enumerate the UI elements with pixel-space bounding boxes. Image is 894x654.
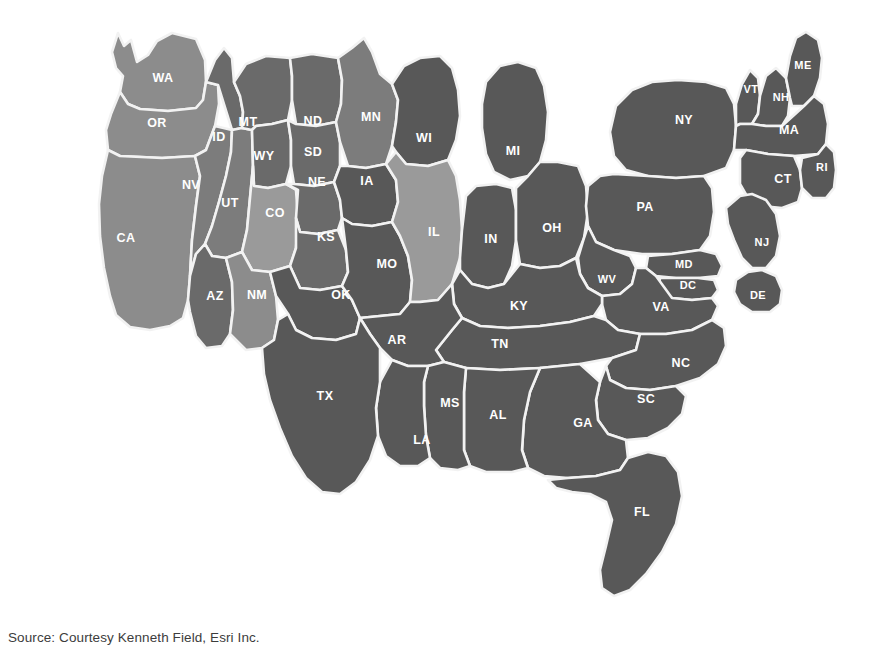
state-shape-WY[interactable] [252, 120, 291, 188]
us-cartogram-map[interactable]: WA OR ID MT ND MN WI MI NY VT NH ME MA C… [0, 0, 894, 620]
region-west [99, 33, 298, 350]
state-shape-MD[interactable] [646, 250, 722, 278]
state-shape-OH[interactable] [516, 162, 588, 268]
state-shape-ND[interactable] [290, 54, 342, 126]
state-shape-WI[interactable] [392, 56, 460, 166]
state-shape-IN[interactable] [460, 184, 516, 288]
state-shape-SD[interactable] [288, 120, 340, 186]
state-shape-DE[interactable] [734, 270, 782, 312]
map-figure: WA OR ID MT ND MN WI MI NY VT NH ME MA C… [0, 0, 894, 654]
state-shape-MS[interactable] [424, 362, 470, 470]
state-shape-NY[interactable] [610, 80, 736, 178]
us-cartogram-svg[interactable]: WA OR ID MT ND MN WI MI NY VT NH ME MA C… [0, 0, 894, 620]
state-shape-CA[interactable] [99, 150, 200, 330]
source-caption: Source: Courtesy Kenneth Field, Esri Inc… [8, 630, 260, 645]
state-shape-PA[interactable] [586, 174, 714, 254]
state-shape-MT[interactable] [234, 56, 292, 130]
state-shape-IA[interactable] [334, 164, 398, 226]
state-shape-LA[interactable] [376, 360, 430, 466]
